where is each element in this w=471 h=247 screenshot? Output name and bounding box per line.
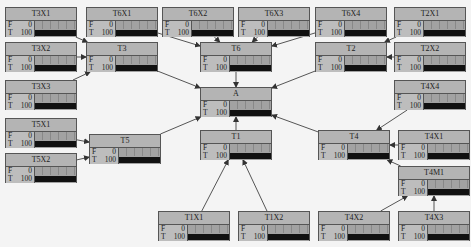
bar-fill <box>35 65 76 71</box>
state-label: T <box>397 29 402 37</box>
node-values: F0 T100 <box>319 225 348 241</box>
node-t4x2[interactable]: T4X2 F0 T100 <box>318 211 390 241</box>
state-label: T <box>241 29 246 37</box>
node-values: F0 T100 <box>201 101 230 117</box>
probability-bars <box>345 21 386 37</box>
node-t4m1[interactable]: T4M1 F0 T100 <box>398 166 470 196</box>
bar-true <box>428 188 469 196</box>
edge-t5x1-to-t5 <box>77 140 89 142</box>
node-title: T3X3 <box>6 81 76 94</box>
node-t3x2[interactable]: T3X2 F0 T100 <box>5 42 77 72</box>
edge-t1x2-to-t1 <box>243 160 267 211</box>
node-t4x4[interactable]: T4X4 F0 T100 <box>394 80 466 110</box>
node-values: F0 T100 <box>316 21 345 37</box>
state-label: T <box>241 233 246 241</box>
node-values: F0 T100 <box>201 144 230 160</box>
state-label: T <box>321 233 326 241</box>
bar-false <box>428 180 469 188</box>
node-values: F0 T100 <box>395 56 424 72</box>
probability-bars <box>428 180 469 196</box>
bar-true <box>188 233 229 241</box>
node-t5x2[interactable]: T5X2 F0 T100 <box>5 153 77 183</box>
bar-true <box>230 64 271 72</box>
bar-fill <box>119 157 160 163</box>
node-t5[interactable]: T5 F0 T100 <box>89 134 161 164</box>
state-label: T <box>397 102 402 110</box>
node-title: T6X2 <box>163 8 233 21</box>
bar-false <box>348 225 389 233</box>
node-title: T5X2 <box>6 154 76 167</box>
state-value: 100 <box>254 233 265 241</box>
bar-true <box>230 152 271 160</box>
node-title: T4X3 <box>399 212 469 225</box>
probability-bars <box>35 56 76 72</box>
state-row-true: T100 <box>87 64 115 72</box>
node-t1x2[interactable]: T1X2 F0 T100 <box>238 211 310 241</box>
bar-true <box>35 175 76 183</box>
node-t5x1[interactable]: T5X1 F0 T100 <box>5 118 77 148</box>
state-label: T <box>401 233 406 241</box>
state-row-true: T100 <box>319 233 347 241</box>
node-t2x1[interactable]: T2X1 F0 T100 <box>394 7 466 37</box>
node-title: T4X2 <box>319 212 389 225</box>
bar-true <box>35 29 76 37</box>
state-value: 100 <box>414 233 425 241</box>
bar-false <box>424 21 465 29</box>
bar-false <box>35 132 76 140</box>
state-label: T <box>89 29 94 37</box>
node-t4[interactable]: T4 F0 T100 <box>318 130 390 160</box>
state-value: 100 <box>102 64 113 72</box>
bar-fill <box>428 153 469 159</box>
state-value: 100 <box>21 64 32 72</box>
node-title: T3X2 <box>6 43 76 56</box>
node-values: F0 T100 <box>399 144 428 160</box>
node-t6x2[interactable]: T6X2 F0 T100 <box>162 7 234 37</box>
bar-false <box>116 21 157 29</box>
node-t6x4[interactable]: T6X4 F0 T100 <box>315 7 387 37</box>
state-row-true: T100 <box>316 64 344 72</box>
bar-false <box>268 21 309 29</box>
state-label: T <box>8 102 13 110</box>
node-t1[interactable]: T1 F0 T100 <box>200 130 272 160</box>
node-t6x3[interactable]: T6X3 F0 T100 <box>238 7 310 37</box>
state-value: 100 <box>216 64 227 72</box>
state-label: T <box>203 152 208 160</box>
node-a[interactable]: A F0 T100 <box>200 87 272 117</box>
state-value: 100 <box>334 152 345 160</box>
node-t3x1[interactable]: T3X1 F0 T100 <box>5 7 77 37</box>
probability-bars <box>230 56 271 72</box>
edge-t2-to-a <box>272 71 315 88</box>
bar-false <box>188 225 229 233</box>
bar-fill <box>116 30 157 36</box>
state-value: 100 <box>410 64 421 72</box>
node-t1x1[interactable]: T1X1 F0 T100 <box>158 211 230 241</box>
state-row-true: T100 <box>6 64 34 72</box>
node-t3[interactable]: T3 F0 T100 <box>86 42 158 72</box>
node-values: F0 T100 <box>159 225 188 241</box>
node-t6x1[interactable]: T6X1 F0 T100 <box>86 7 158 37</box>
edge-t5-to-a <box>160 117 200 134</box>
bar-false <box>230 56 271 64</box>
node-title: T2X1 <box>395 8 465 21</box>
node-t2[interactable]: T2 F0 T100 <box>315 42 387 72</box>
bar-fill <box>35 141 76 147</box>
node-title: T3 <box>87 43 157 56</box>
bar-true <box>268 233 309 241</box>
state-label: T <box>401 188 406 196</box>
probability-bars <box>348 225 389 241</box>
node-t6[interactable]: T6 F0 T100 <box>200 42 272 72</box>
node-t4x1[interactable]: T4X1 F0 T100 <box>398 130 470 160</box>
node-values: F0 T100 <box>6 94 35 110</box>
node-t3x3[interactable]: T3X3 F0 T100 <box>5 80 77 110</box>
node-t2x2[interactable]: T2X2 F0 T100 <box>394 42 466 72</box>
bar-fill <box>35 30 76 36</box>
node-t4x3[interactable]: T4X3 F0 T100 <box>398 211 470 241</box>
node-title: T5 <box>90 135 160 148</box>
bar-fill <box>424 65 465 71</box>
node-title: T1 <box>201 131 271 144</box>
probability-bars <box>35 132 76 148</box>
probability-bars <box>268 21 309 37</box>
state-value: 100 <box>410 29 421 37</box>
node-values: F0 T100 <box>6 167 35 183</box>
bar-false <box>192 21 233 29</box>
